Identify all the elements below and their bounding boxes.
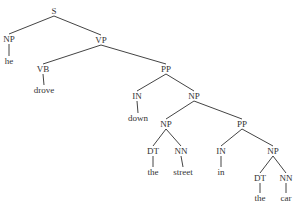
tree-edge bbox=[166, 129, 181, 146]
word-leaf: drove bbox=[34, 86, 55, 95]
word-leaf: the bbox=[255, 194, 266, 203]
word-leaf: car bbox=[281, 194, 292, 203]
word-leaf: he bbox=[5, 57, 14, 66]
tree-node-np: NP bbox=[267, 147, 279, 156]
tree-node-nn: NN bbox=[280, 174, 293, 183]
tree-edge bbox=[166, 101, 194, 119]
tree-node-dt: DT bbox=[254, 174, 266, 183]
tree-node-vp: VP bbox=[95, 36, 107, 45]
tree-edge bbox=[9, 16, 54, 34]
tree-node-vb: VB bbox=[37, 65, 50, 74]
tree-edge bbox=[166, 74, 194, 91]
tree-edge bbox=[194, 101, 242, 119]
tree-node-pp: PP bbox=[161, 65, 171, 74]
tree-node-in: IN bbox=[216, 147, 226, 156]
tree-node-s: S bbox=[51, 7, 56, 16]
tree-edge bbox=[101, 45, 166, 64]
tree-edge bbox=[43, 74, 44, 85]
tree-node-np: NP bbox=[188, 92, 200, 101]
tree-node-np: NP bbox=[160, 120, 172, 129]
tree-node-nn: NN bbox=[175, 147, 188, 156]
tree-edges bbox=[0, 0, 293, 202]
tree-edge bbox=[221, 129, 242, 146]
word-leaf: down bbox=[128, 114, 148, 123]
tree-edge bbox=[181, 156, 183, 167]
tree-edge bbox=[273, 156, 286, 173]
word-leaf: the bbox=[148, 168, 159, 177]
tree-edge bbox=[54, 16, 101, 35]
tree-edge bbox=[137, 101, 138, 113]
tree-edge bbox=[153, 129, 166, 146]
tree-edge bbox=[137, 74, 166, 91]
word-leaf: in bbox=[217, 168, 224, 177]
tree-edge bbox=[43, 45, 101, 64]
tree-node-in: IN bbox=[132, 92, 142, 101]
tree-node-np: NP bbox=[3, 35, 15, 44]
tree-node-pp: PP bbox=[237, 120, 247, 129]
word-leaf: street bbox=[173, 168, 193, 177]
tree-edge bbox=[242, 129, 273, 146]
tree-node-dt: DT bbox=[147, 147, 159, 156]
tree-edge bbox=[260, 156, 273, 173]
parse-tree-diagram: SNPheVPVBdrovePPINdownNPNPDTtheNNstreetP… bbox=[0, 0, 293, 202]
